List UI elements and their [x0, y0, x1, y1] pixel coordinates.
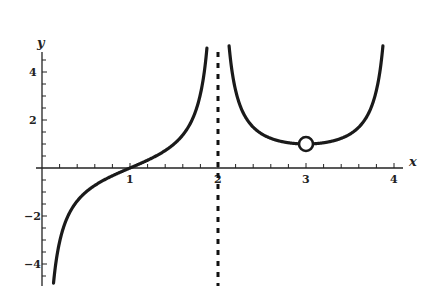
curve-right-branch [229, 46, 383, 144]
y-tick-label-4: 4 [29, 66, 37, 79]
x-ticks [60, 163, 394, 168]
y-tick-label-2: 2 [29, 114, 37, 127]
y-tick-label-neg4: −4 [24, 258, 41, 271]
x-tick-label-3: 3 [302, 173, 310, 186]
x-tick-label-1: 1 [126, 173, 134, 186]
y-tick-label-neg2: −2 [24, 210, 41, 223]
y-axis-label: y [36, 35, 46, 50]
x-tick-label-4: 4 [390, 173, 398, 186]
chart-canvas: 4 2 −2 −4 1 2 3 4 y x [0, 0, 445, 296]
x-axis-label: x [408, 154, 417, 169]
hole-marker [299, 137, 313, 151]
